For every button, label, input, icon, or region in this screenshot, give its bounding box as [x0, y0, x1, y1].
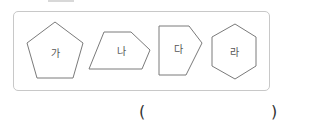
shape-na[interactable]: 나: [89, 32, 150, 69]
answer-close-paren: ): [271, 102, 277, 121]
shape-ra[interactable]: 라: [212, 24, 256, 79]
shape-da[interactable]: 다: [159, 26, 202, 75]
shape-label-na: 나: [117, 46, 126, 57]
shape-label-ra: 라: [230, 47, 239, 58]
shape-label-ga: 가: [51, 48, 60, 59]
answer-open-paren: (: [139, 102, 145, 121]
shape-ga[interactable]: 가: [27, 22, 83, 78]
shape-label-da: 다: [174, 44, 183, 55]
